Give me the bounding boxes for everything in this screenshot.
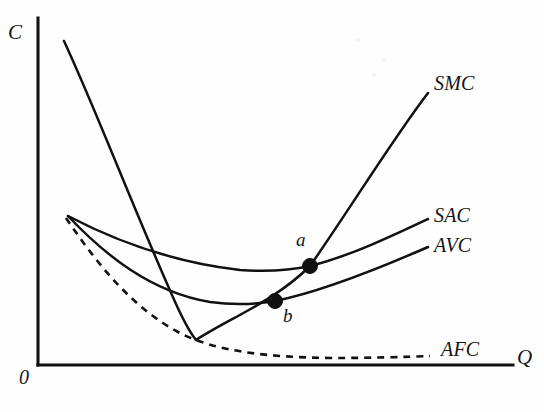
scan-speck xyxy=(356,38,361,42)
avc-curve-label: AVC xyxy=(434,235,471,255)
scan-speck xyxy=(381,58,387,62)
sac-curve-label: SAC xyxy=(434,205,470,225)
scan-speck xyxy=(372,72,376,77)
smc-curve xyxy=(64,41,428,340)
point-a-dot xyxy=(303,259,318,274)
cost-curve-figure: C Q 0 SMC SAC AVC AFC a b xyxy=(0,0,544,412)
afc-curve-label: AFC xyxy=(441,339,479,359)
point-b-label: b xyxy=(283,306,293,325)
avc-curve xyxy=(68,216,428,304)
smc-curve-label: SMC xyxy=(434,73,475,93)
point-a-label: a xyxy=(296,230,306,249)
y-axis-label: C xyxy=(8,22,22,43)
point-b-dot xyxy=(268,294,283,309)
origin-label: 0 xyxy=(19,367,29,387)
x-axis-label: Q xyxy=(517,347,532,368)
